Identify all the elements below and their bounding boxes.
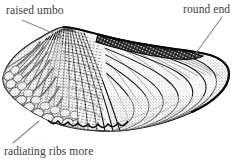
leader-radiating-ribs bbox=[13, 121, 39, 143]
label-round-end: round end bbox=[183, 3, 230, 16]
bivalve-shell-figure: raised umbo round end radiating ribs mor… bbox=[0, 0, 238, 160]
label-raised-umbo: raised umbo bbox=[6, 4, 64, 17]
label-radiating-ribs: radiating ribs more bbox=[4, 145, 93, 158]
leader-round-end bbox=[196, 17, 222, 53]
shell-illustration bbox=[0, 0, 238, 160]
